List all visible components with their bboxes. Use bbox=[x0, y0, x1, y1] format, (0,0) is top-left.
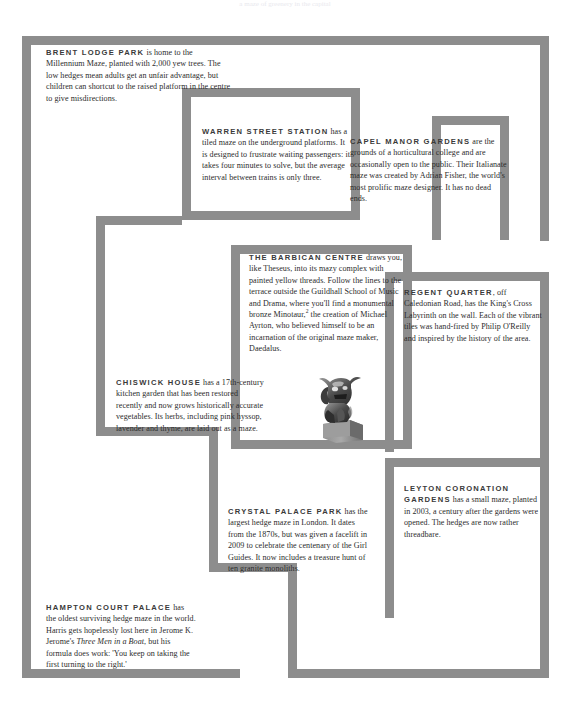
wall-chiswick-top bbox=[96, 216, 182, 225]
maze-infographic: a maze of greenery in the capital BRENT … bbox=[0, 0, 570, 710]
entry-crystal-palace-park: CRYSTAL PALACE PARK has the largest hedg… bbox=[228, 506, 371, 574]
entry-chiswick-house: CHISWICK HOUSE has a 17th-century kitche… bbox=[116, 377, 264, 434]
wall-outer-bottom-right bbox=[288, 669, 549, 678]
entry-name-crystal-palace-park: CRYSTAL PALACE PARK bbox=[228, 507, 342, 516]
entry-brent-lodge-park: BRENT LODGE PARK is home to the Millenni… bbox=[46, 47, 231, 104]
wall-warren-bottom bbox=[182, 211, 360, 220]
entry-name-chiswick-house: CHISWICK HOUSE bbox=[116, 378, 201, 387]
wall-crystal-right bbox=[288, 563, 297, 673]
entry-hampton-court-palace: HAMPTON COURT PALACE has the oldest surv… bbox=[46, 602, 196, 670]
book-title-three-men-in-a-boat: Three Men in a Boat bbox=[76, 637, 144, 646]
wall-chiswick-right-down bbox=[209, 427, 218, 572]
entry-name-warren-street-station: WARREN STREET STATION bbox=[202, 127, 328, 136]
wall-regent-top bbox=[385, 272, 549, 281]
entry-name-hampton-court-palace: HAMPTON COURT PALACE bbox=[46, 603, 171, 612]
entry-body-crystal-palace-park: has the largest hedge maze in London. It… bbox=[228, 507, 368, 573]
entry-warren-street-station: WARREN STREET STATION has a tiled maze o… bbox=[202, 126, 352, 183]
entry-name-capel-manor-gardens: CAPEL MANOR GARDENS bbox=[350, 137, 470, 146]
minotaur-statue-image bbox=[306, 372, 370, 444]
entry-capel-manor-gardens: CAPEL MANOR GARDENS are the grounds of a… bbox=[350, 136, 510, 204]
entry-leyton-coronation-gardens: LEYTON CORONATION GARDENS has a small ma… bbox=[404, 483, 544, 540]
wall-outer-left bbox=[22, 36, 31, 678]
entry-name-brent-lodge-park: BRENT LODGE PARK bbox=[46, 48, 144, 57]
wall-warren-left bbox=[182, 88, 191, 220]
entry-the-barbican-centre: THE BARBICAN CENTRE draws you, like Thes… bbox=[249, 252, 405, 355]
wall-leyton-left bbox=[385, 458, 394, 618]
wall-chiswick-left bbox=[96, 216, 105, 435]
cropped-header-remnant: a maze of greenery in the capital bbox=[0, 0, 570, 9]
entry-body-capel-manor-gardens: are the grounds of a horticultural colle… bbox=[350, 137, 507, 203]
entry-regent-quarter: REGENT QUARTER, off Caledonian Road, has… bbox=[404, 287, 544, 344]
wall-outer-top bbox=[22, 36, 549, 45]
entry-name-the-barbican-centre: THE BARBICAN CENTRE bbox=[249, 253, 364, 262]
entry-name-regent-quarter: REGENT QUARTER bbox=[404, 288, 493, 297]
wall-capel-top bbox=[432, 116, 509, 125]
wall-outer-right-upper bbox=[540, 36, 549, 241]
wall-leyton-top bbox=[385, 458, 549, 467]
